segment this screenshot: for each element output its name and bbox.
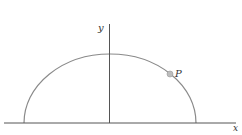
point-p-label: P: [174, 68, 182, 79]
ellipse-diagram: P y x: [0, 0, 242, 135]
x-axis-label: x: [233, 123, 238, 133]
point-p-marker: [167, 71, 173, 77]
y-axis-label: y: [97, 22, 104, 33]
